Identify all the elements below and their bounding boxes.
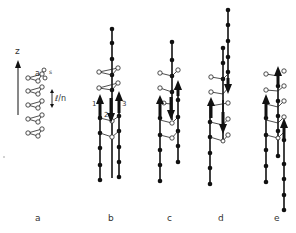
diagram-canvas: z a s ℓ/n [0,0,296,233]
z-axis-label: z [15,46,20,56]
panel-label-e: e [274,213,280,223]
z-axis-arrowhead-icon [15,60,21,68]
a-label: a [35,69,40,78]
arrow-2-label: 2 [104,111,108,119]
panel-b: 1 2 3 [92,27,126,183]
panel-label-b: b [108,213,114,223]
panel-c [156,40,182,184]
panel-e [262,66,288,212]
panel-d [207,8,232,187]
s-label: s [49,68,52,75]
panel-label-a: a [35,213,41,223]
panel-label-c: c [167,213,172,223]
arrow-1-label: 1 [92,100,96,108]
panel-label-d: d [218,213,224,223]
panel-a: z a s ℓ/n [15,46,66,138]
motif-stack [26,68,47,138]
spacing-label: ℓ/n [54,94,66,103]
arrow-3-label: 3 [122,100,126,108]
